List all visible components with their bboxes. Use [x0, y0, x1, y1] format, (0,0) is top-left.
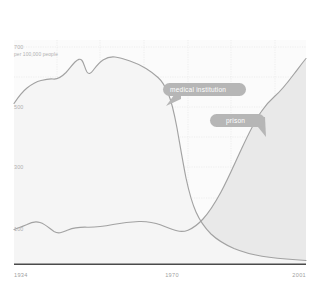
y-tick-label-700: 700 [14, 44, 23, 50]
y-tick-label-100: 100 [14, 226, 23, 232]
chart-svg: 700 per 100,000 people 500 300 100 1934 … [0, 0, 320, 298]
y-tick-label-300: 300 [14, 164, 23, 170]
x-tick-label-1970: 1970 [165, 272, 179, 278]
x-tick-label-1934: 1934 [14, 272, 28, 278]
y-axis-unit-label: per 100,000 people [14, 52, 58, 57]
callout-medical-label: medical institution [170, 86, 226, 93]
callout-prison-label: prison [226, 117, 245, 125]
chart-container: 700 per 100,000 people 500 300 100 1934 … [0, 0, 320, 298]
x-tick-label-2001: 2001 [292, 272, 306, 278]
y-tick-label-500: 500 [14, 104, 23, 110]
